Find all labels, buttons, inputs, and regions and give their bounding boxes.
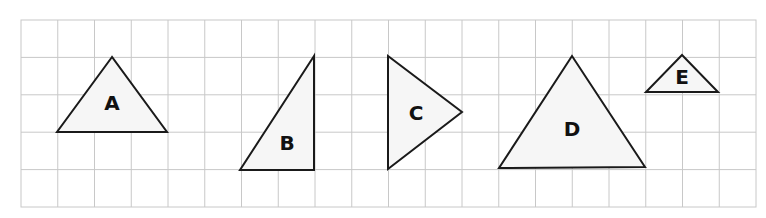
triangle-label: E <box>675 65 689 89</box>
triangle-e: E <box>646 55 718 92</box>
triangle-d: D <box>499 56 645 168</box>
triangle-b: B <box>240 56 314 170</box>
shapes-layer: ABCDE <box>57 55 718 170</box>
triangle-shape <box>499 56 645 168</box>
triangle-label: A <box>104 91 120 115</box>
triangle-grid-diagram: ABCDE <box>0 0 766 218</box>
triangle-label: B <box>279 131 294 155</box>
triangle-shape <box>240 56 314 170</box>
triangle-label: C <box>409 101 424 125</box>
triangle-label: D <box>564 117 581 141</box>
